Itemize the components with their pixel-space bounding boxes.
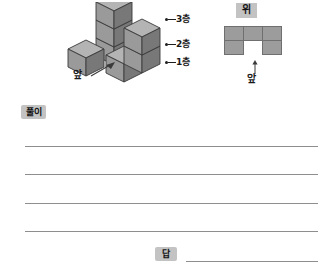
- answer-label: 답: [155, 247, 177, 261]
- grid-cell-empty: [243, 40, 263, 55]
- grid-cell: [262, 40, 282, 55]
- grid-cell: [224, 40, 244, 55]
- grid-cell: [243, 26, 263, 41]
- answer-rule-line[interactable]: [25, 203, 318, 204]
- top-view-heading: 위: [236, 3, 257, 18]
- layer-2-label: 2층: [176, 40, 189, 49]
- grid-row: [224, 26, 284, 41]
- answer-rule-line[interactable]: [25, 146, 318, 147]
- solution-label: 풀이: [21, 105, 46, 119]
- layer-3-callout-line: [168, 19, 176, 20]
- answer-input-line[interactable]: [186, 261, 318, 262]
- layer-1-callout-line: [168, 62, 176, 63]
- grid-row: [224, 41, 284, 56]
- layer-3-label: 3층: [176, 15, 189, 24]
- grid-cell: [262, 26, 282, 41]
- layer-2-callout-line: [168, 44, 176, 45]
- grid-cell: [224, 26, 244, 41]
- layer-1-label: 1층: [176, 58, 189, 67]
- figure-area: 3층 2층 1층 앞 위 앞: [0, 0, 332, 95]
- front-label-solid: 앞: [73, 70, 82, 80]
- answer-rule-line[interactable]: [25, 174, 318, 175]
- top-view-grid: [224, 26, 284, 56]
- front-arrow-icon: [90, 62, 116, 78]
- front-label-top-view: 앞: [247, 74, 256, 84]
- front-arrow-up-icon: [252, 60, 258, 74]
- answer-rule-line[interactable]: [25, 231, 318, 232]
